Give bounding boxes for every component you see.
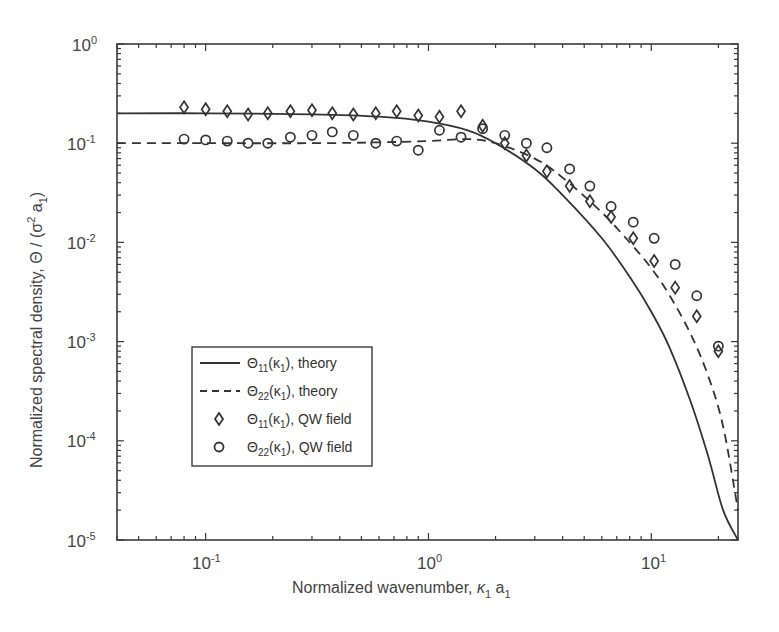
legend: Θ11(κ1), theory Θ22(κ1), theory Θ11(κ1),… [192,347,372,466]
spectral-density-chart: 100 10-1 10-2 10-3 10-4 10-5 10-1 100 10… [0,0,779,632]
